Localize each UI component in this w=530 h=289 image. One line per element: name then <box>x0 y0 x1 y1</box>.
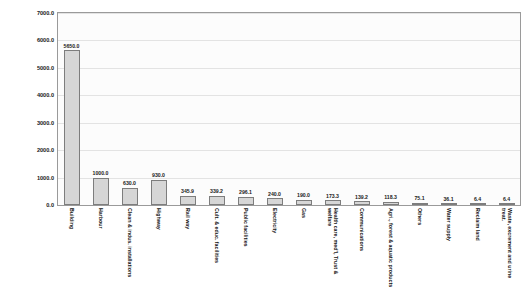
category-slot: Electricity <box>260 208 289 289</box>
bar-value-label: 296.1 <box>239 189 252 195</box>
category-label: Waste, excrement and urine treat. <box>500 208 512 288</box>
category-slot: Building <box>57 208 86 289</box>
bar[interactable] <box>238 197 254 205</box>
bar-slot: 6.4 <box>492 12 521 205</box>
bar-value-label: 75.1 <box>414 195 424 201</box>
bar-value-label: 930.0 <box>152 172 165 178</box>
bar[interactable] <box>325 200 341 205</box>
y-axis-tick-label: 5000.0 <box>16 65 54 71</box>
bar-value-label: 345.9 <box>181 188 194 194</box>
bar-value-label: 5650.0 <box>64 43 80 49</box>
category-label: Highway <box>155 208 161 288</box>
y-axis-tick-label: 4000.0 <box>16 92 54 98</box>
bar[interactable] <box>383 202 399 205</box>
bar[interactable] <box>441 203 457 205</box>
bar-slot: 339.2 <box>202 12 231 205</box>
bar-value-label: 630.0 <box>123 180 136 186</box>
category-slot: Cult. & educ. facilities <box>202 208 231 289</box>
bar[interactable] <box>209 196 225 205</box>
bar-slot: 118.3 <box>376 12 405 205</box>
x-axis-category-labels: BuildingHarbourClean & indus. installati… <box>57 208 521 289</box>
y-axis-tick-label: 1000.0 <box>16 175 54 181</box>
category-slot: Health care, med'l, Trust & welfare <box>318 208 347 289</box>
bar-slot: 296.1 <box>231 12 260 205</box>
bar-value-label: 173.3 <box>326 193 339 199</box>
category-slot: Others <box>405 208 434 289</box>
bar[interactable] <box>64 50 80 205</box>
bar-value-label: 240.0 <box>268 191 281 197</box>
y-axis-tick-label: 2000.0 <box>16 147 54 153</box>
y-axis-tick-label: 6000.0 <box>16 37 54 43</box>
bar-slot: 1000.0 <box>86 12 115 205</box>
y-axis-tick-label: 7000.0 <box>16 10 54 16</box>
category-slot: Highway <box>144 208 173 289</box>
category-label: Agri., forest & aquatic products <box>387 208 393 288</box>
category-slot: Harbour <box>86 208 115 289</box>
bar-slot: 173.3 <box>318 12 347 205</box>
bar[interactable] <box>354 201 370 205</box>
category-label: Harbour <box>97 208 103 288</box>
chart-root: billion yen 0.01000.02000.03000.04000.05… <box>0 0 530 289</box>
bar[interactable] <box>470 203 486 205</box>
y-axis-tick-label: 0.0 <box>16 202 54 208</box>
category-label: Clean & indus. installations <box>126 208 132 288</box>
bar-value-label: 118.3 <box>384 194 397 200</box>
category-slot: Clean & indus. installations <box>115 208 144 289</box>
y-axis-tick-label: 3000.0 <box>16 120 54 126</box>
category-label: Gas <box>300 208 306 288</box>
category-slot: Communications <box>347 208 376 289</box>
category-label: Communications <box>358 208 364 288</box>
bar-value-label: 1000.0 <box>93 170 109 176</box>
category-slot: Water supply <box>434 208 463 289</box>
bar-value-label: 6.4 <box>474 196 481 202</box>
bar-value-label: 190.0 <box>297 192 310 198</box>
category-slot: Reclaim land <box>463 208 492 289</box>
bar[interactable] <box>151 180 167 206</box>
bar[interactable] <box>93 178 109 205</box>
bar[interactable] <box>412 203 428 205</box>
category-label: Reclaim land <box>474 208 480 288</box>
bar[interactable] <box>499 203 515 205</box>
bar-slot: 75.1 <box>405 12 434 205</box>
category-label: Water supply <box>445 208 451 288</box>
category-label: Health care, med'l, Trust & welfare <box>326 208 338 288</box>
category-label: Others <box>416 208 422 288</box>
bar-slot: 139.2 <box>347 12 376 205</box>
category-slot: Agri., forest & aquatic products <box>376 208 405 289</box>
category-slot: Gas <box>289 208 318 289</box>
bar-value-label: 36.1 <box>443 196 453 202</box>
bar-series: 5650.01000.0630.0930.0345.9339.2296.1240… <box>57 12 521 205</box>
bar-value-label: 339.2 <box>210 188 223 194</box>
bar-slot: 5650.0 <box>57 12 86 205</box>
bar-slot: 930.0 <box>144 12 173 205</box>
category-label: Electricity <box>271 208 277 288</box>
category-slot: Waste, excrement and urine treat. <box>492 208 521 289</box>
bar-slot: 6.4 <box>463 12 492 205</box>
bar[interactable] <box>267 198 283 205</box>
bar-slot: 630.0 <box>115 12 144 205</box>
bar[interactable] <box>122 188 138 205</box>
bar-slot: 345.9 <box>173 12 202 205</box>
bar[interactable] <box>296 200 312 205</box>
bar-value-label: 6.4 <box>503 196 510 202</box>
category-label: Public facilities <box>242 208 248 288</box>
bar-slot: 240.0 <box>260 12 289 205</box>
category-slot: Public facilities <box>231 208 260 289</box>
category-label: Building <box>68 208 74 288</box>
category-label: Rail way <box>184 208 190 288</box>
bar-value-label: 139.2 <box>355 194 368 200</box>
bar-slot: 190.0 <box>289 12 318 205</box>
category-label: Cult. & educ. facilities <box>213 208 219 288</box>
y-axis-tick-labels: 0.01000.02000.03000.04000.05000.06000.07… <box>16 0 54 289</box>
bar[interactable] <box>180 196 196 205</box>
bar-slot: 36.1 <box>434 12 463 205</box>
category-slot: Rail way <box>173 208 202 289</box>
